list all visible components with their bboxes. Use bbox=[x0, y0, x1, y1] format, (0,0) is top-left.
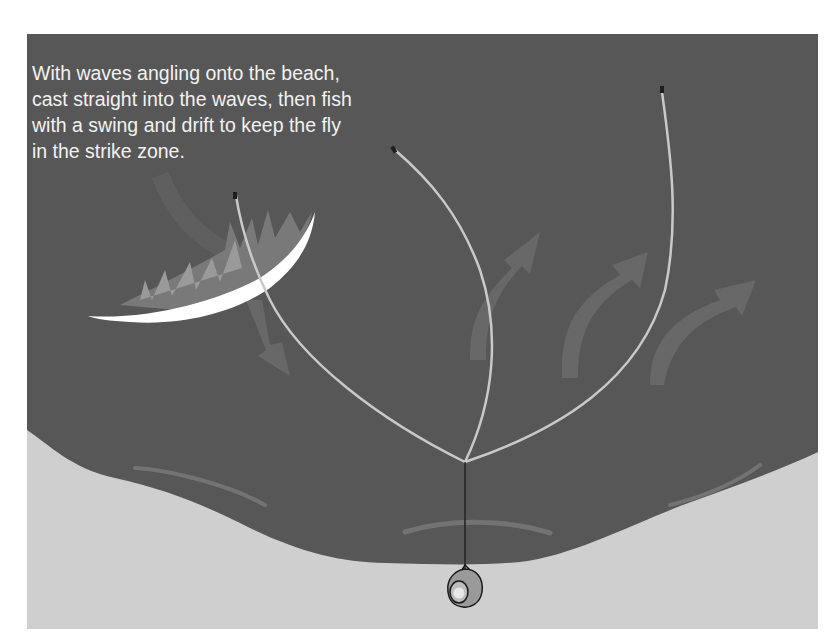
arrow-down-icon bbox=[246, 300, 290, 376]
arrow-up-right-2-icon bbox=[650, 280, 756, 385]
current-arrows bbox=[246, 232, 756, 385]
caption-line-2: cast straight into the waves, then fish bbox=[32, 86, 452, 112]
cast-center-line bbox=[395, 150, 492, 462]
fly-icon bbox=[233, 192, 237, 199]
arrow-up-center-icon bbox=[470, 232, 540, 360]
shore-ripple bbox=[405, 522, 550, 533]
diagram-caption: With waves angling onto the beach, cast … bbox=[32, 60, 452, 164]
fly-icon bbox=[660, 86, 664, 93]
caption-line-1: With waves angling onto the beach, bbox=[32, 60, 452, 86]
caption-line-3: with a swing and drift to keep the fly bbox=[32, 112, 452, 138]
caption-line-4: in the strike zone. bbox=[32, 138, 452, 164]
arrow-up-right-1-icon bbox=[562, 252, 648, 378]
